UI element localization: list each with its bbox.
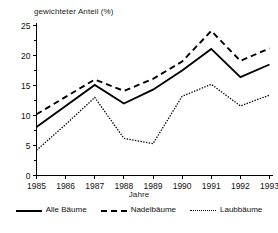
data-series-group <box>37 31 270 150</box>
x-tick-label: 1992 <box>231 181 250 191</box>
y-tick-label: 5 <box>26 141 31 151</box>
series-line-solid <box>37 49 270 127</box>
y-axis-tick-labels: 0510152025 <box>21 21 31 181</box>
legend-swatch-dashed <box>101 206 127 214</box>
legend-item[interactable]: Nadelbäume <box>101 205 176 214</box>
chart-container: gewichteter Anteil (%) 0510152025 198519… <box>0 0 278 233</box>
x-tick-label: 1993 <box>260 181 278 191</box>
y-tick-label: 10 <box>21 111 31 121</box>
legend-item-label: Nadelbäume <box>131 205 176 214</box>
x-tick-label: 1986 <box>56 181 75 191</box>
x-tick-label: 1987 <box>85 181 104 191</box>
x-tick-label: 1990 <box>173 181 192 191</box>
legend-swatch-dotted <box>190 206 216 214</box>
y-tick-label: 0 <box>26 171 31 181</box>
chart-legend: Alle BäumeNadelbäumeLaubbäume <box>0 205 278 214</box>
legend-item-label: Laubbäume <box>220 205 262 214</box>
x-axis-title: Jahre <box>0 190 278 199</box>
x-axis-tick-labels: 198519861987198819891990199119921993 <box>27 181 278 191</box>
x-tick-label: 1989 <box>144 181 163 191</box>
y-tick-label: 20 <box>21 51 31 61</box>
legend-item-label: Alle Bäume <box>46 205 87 214</box>
y-tick-label: 15 <box>21 81 31 91</box>
y-tick-label: 25 <box>21 21 31 31</box>
x-tick-label: 1988 <box>114 181 133 191</box>
legend-swatch-solid <box>16 206 42 214</box>
x-tick-label: 1985 <box>27 181 46 191</box>
x-tick-label: 1991 <box>202 181 221 191</box>
legend-item[interactable]: Alle Bäume <box>16 205 87 214</box>
legend-item[interactable]: Laubbäume <box>190 205 262 214</box>
